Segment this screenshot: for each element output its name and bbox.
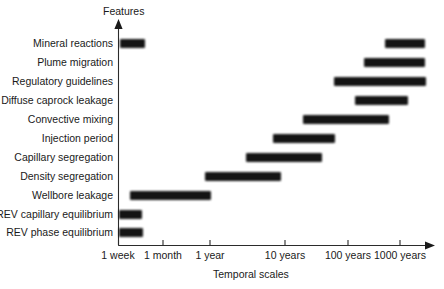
category-label: Injection period <box>42 133 113 144</box>
category-label: Regulatory guidelines <box>12 76 113 87</box>
bar-segment <box>246 153 322 162</box>
bar-segment <box>273 134 335 143</box>
category-label: REV capillary equilibrium <box>0 209 113 220</box>
bar-segment <box>130 191 211 200</box>
bar-segment <box>119 228 143 237</box>
x-axis-title: Temporal scales <box>213 268 289 280</box>
category-label: Plume migration <box>37 57 113 68</box>
x-tick-label: 1000 years <box>374 249 426 261</box>
x-tick-label: 1 year <box>195 249 224 261</box>
bar-segment <box>303 115 389 124</box>
category-label: Capillary segregation <box>14 152 113 163</box>
category-label: Density segregation <box>20 171 113 182</box>
bar-segment <box>334 77 426 86</box>
bar-segment <box>364 58 425 67</box>
category-label: Mineral reactions <box>33 38 113 49</box>
bar-segment <box>120 39 145 48</box>
bar-segment <box>355 96 408 105</box>
x-tick-label: 10 years <box>265 249 305 261</box>
x-tick-label: 1 month <box>144 249 182 261</box>
x-tick-label: 1 week <box>101 249 134 261</box>
bar-segment <box>385 39 425 48</box>
x-tick-label: 100 years <box>325 249 371 261</box>
bar-segment <box>205 172 281 181</box>
category-label: REV phase equilibrium <box>6 227 113 238</box>
category-label: Diffuse caprock leakage <box>1 95 113 106</box>
y-axis-title: Features <box>103 5 144 17</box>
category-label: Convective mixing <box>28 114 113 125</box>
category-label: Wellbore leakage <box>32 190 113 201</box>
temporal-scales-chart: Features Temporal scales Mineral reactio… <box>0 0 444 289</box>
bar-segment <box>119 210 142 219</box>
